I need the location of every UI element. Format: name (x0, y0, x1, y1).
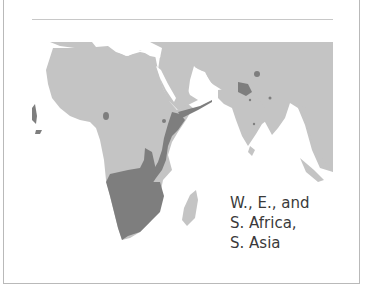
range-caption: W., E., and S. Africa, S. Asia (230, 193, 309, 253)
range-map (0, 0, 367, 295)
